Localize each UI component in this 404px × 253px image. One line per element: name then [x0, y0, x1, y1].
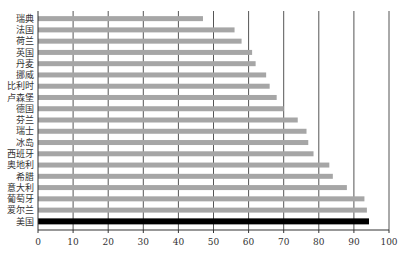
category-label: 英国 [16, 47, 34, 58]
bar-9 [38, 118, 298, 123]
bar-18 [38, 218, 369, 224]
category-label: 卢森堡 [7, 92, 34, 103]
x-tick-label: 60 [243, 237, 255, 247]
x-tick-label: 50 [208, 237, 220, 247]
x-tick-label: 100 [380, 237, 397, 247]
category-label: 法国 [16, 24, 34, 35]
category-label: 西班牙 [7, 148, 34, 159]
bar-12 [38, 151, 314, 156]
category-label: 丹麦 [16, 58, 34, 69]
bar-11 [38, 140, 308, 145]
bar-chart: 瑞典法国荷兰英国丹麦挪威比利时卢森堡德国芬兰瑞士冰岛西班牙奥地利希腊意大利葡萄牙… [0, 0, 404, 253]
category-label: 瑞士 [16, 125, 34, 136]
bar-5 [38, 72, 266, 77]
bar-17 [38, 208, 367, 213]
bar-10 [38, 129, 307, 134]
bar-6 [38, 84, 270, 89]
bar-3 [38, 50, 252, 55]
x-tick-label: 80 [313, 237, 325, 247]
bar-4 [38, 61, 256, 66]
x-tick-label: 30 [138, 237, 150, 247]
x-tick-label: 90 [348, 237, 360, 247]
category-label: 德国 [16, 103, 34, 114]
bar-13 [38, 163, 329, 168]
bar-16 [38, 196, 364, 201]
category-labels: 瑞典法国荷兰英国丹麦挪威比利时卢森堡德国芬兰瑞士冰岛西班牙奥地利希腊意大利葡萄牙… [7, 13, 34, 227]
category-label: 瑞典 [16, 13, 34, 24]
category-label: 比利时 [7, 80, 34, 91]
category-label: 奥地利 [7, 159, 34, 170]
x-tick-label: 20 [102, 237, 114, 247]
x-tick-label: 70 [278, 237, 290, 247]
x-tick-label: 40 [173, 237, 185, 247]
category-label: 荷兰 [16, 35, 34, 46]
bar-14 [38, 174, 333, 179]
bar-2 [38, 39, 242, 44]
category-label: 希腊 [16, 171, 34, 182]
bar-1 [38, 27, 235, 32]
category-label: 意大利 [7, 182, 34, 193]
bars [38, 16, 369, 224]
bar-0 [38, 16, 203, 21]
category-label: 美国 [16, 216, 34, 227]
category-label: 芬兰 [16, 114, 34, 125]
bar-8 [38, 106, 284, 111]
x-tick-label: 10 [67, 237, 79, 247]
category-label: 挪威 [16, 69, 34, 80]
category-label: 冰岛 [16, 137, 34, 148]
category-label: 爱尔兰 [7, 204, 34, 215]
bar-15 [38, 185, 347, 190]
bar-7 [38, 95, 277, 100]
x-tick-label: 0 [35, 237, 41, 247]
category-label: 葡萄牙 [7, 193, 34, 204]
